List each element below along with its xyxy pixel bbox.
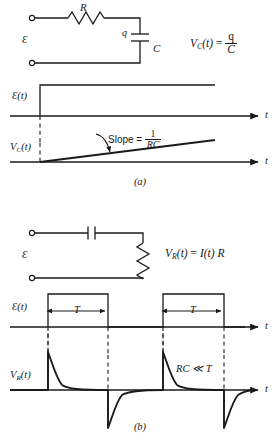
emf-arg-a: (t) <box>17 90 27 101</box>
equation-vc: VC(t) = q C <box>190 31 237 55</box>
equation-vr-eq: = <box>191 247 198 259</box>
plot-a-emf-xlabel: t <box>265 110 268 121</box>
emf-arg-b: (t) <box>17 301 27 312</box>
plot-a-emf-ylabel: Ɛ(t) <box>12 91 27 102</box>
slope-text: Slope = <box>108 134 142 145</box>
capacitor-label-a: C <box>153 43 160 54</box>
plot-a-vc-ylabel: VC(t) <box>10 142 31 154</box>
equation-vc-eq: = <box>216 37 223 49</box>
slope-fraction: 1 RC <box>145 129 162 150</box>
equation-vc-numerator: q <box>225 31 237 43</box>
equation-vc-lhs: V <box>190 37 197 49</box>
charge-label-a: q <box>122 28 127 38</box>
source-label-a: Ɛ <box>22 34 27 45</box>
rc-condition-annotation: RC ≪ T <box>176 364 212 375</box>
equation-vr: VR(t) = I(t) R <box>165 248 225 261</box>
vr-arg: (t) <box>21 369 31 380</box>
plot-b-emf-xlabel: t <box>265 321 268 332</box>
slope-annotation: Slope = 1 RC <box>108 129 161 150</box>
slope-denominator: RC <box>145 139 162 150</box>
panel-caption-b: (b) <box>0 421 280 432</box>
resistor-label-a: R <box>80 2 87 13</box>
source-label-b: Ɛ <box>22 249 27 260</box>
plot-a-vc-xlabel: t <box>265 156 268 167</box>
plot-b-emf-ylabel: Ɛ(t) <box>12 302 27 313</box>
equation-vc-fraction: q C <box>225 31 237 55</box>
plot-b-vr-ylabel: VR(t) <box>10 370 31 382</box>
circuit-a <box>29 12 149 66</box>
equation-vr-lhs: V <box>165 247 172 259</box>
equation-vc-arg: (t) <box>202 37 213 49</box>
panel-caption-a: (a) <box>0 176 280 187</box>
figure-rc-circuits: Ɛ R q C VC(t) = q C Ɛ(t) t VC(t) t Slope… <box>0 0 280 441</box>
equation-vc-denominator: C <box>225 43 237 56</box>
pulse-width-label-2: T <box>190 305 196 316</box>
circuit-b <box>29 227 149 281</box>
figure-drawing <box>0 0 280 441</box>
plot-b-vr-xlabel: t <box>265 384 268 395</box>
plot-b-vr <box>10 333 258 428</box>
equation-vr-arg: (t) <box>177 247 188 259</box>
equation-vr-rhs: I(t) R <box>200 247 225 259</box>
pulse-width-label-1: T <box>74 305 80 316</box>
plot-b-emf <box>10 294 258 355</box>
slope-numerator: 1 <box>145 129 162 139</box>
vc-arg: (t) <box>21 141 31 152</box>
